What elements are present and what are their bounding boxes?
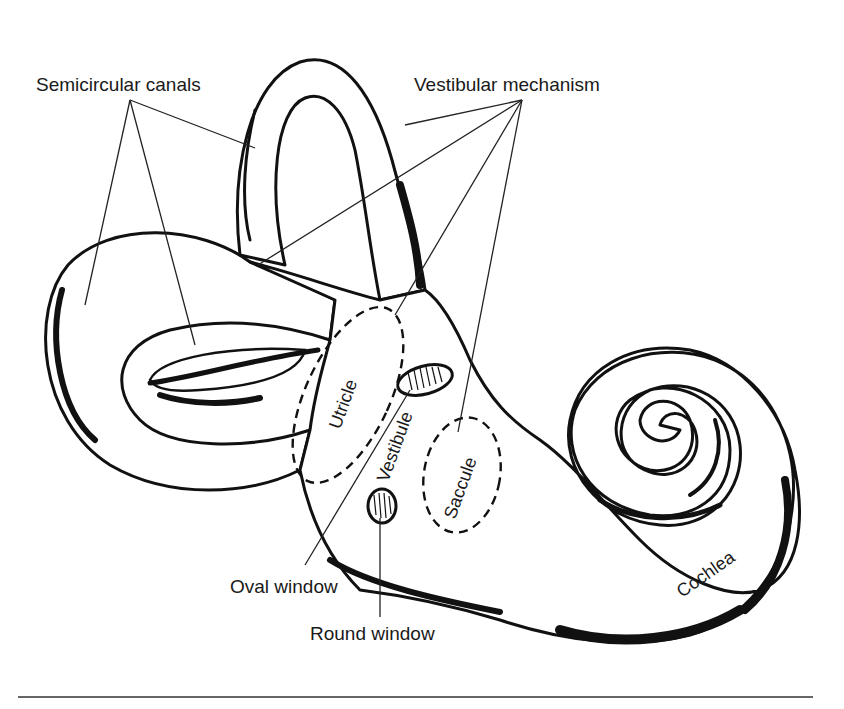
superior-semicircular-canal — [238, 60, 426, 300]
label-semicircular-canals: Semicircular canals — [36, 74, 201, 95]
inner-ear-illustration — [46, 60, 800, 643]
label-vestibular-mechanism: Vestibular mechanism — [414, 74, 600, 95]
inner-ear-diagram: Semicircular canals Vestibular mechanism… — [0, 0, 844, 709]
label-round-window: Round window — [310, 623, 435, 644]
round-window — [368, 489, 396, 523]
label-oval-window: Oval window — [230, 576, 338, 597]
